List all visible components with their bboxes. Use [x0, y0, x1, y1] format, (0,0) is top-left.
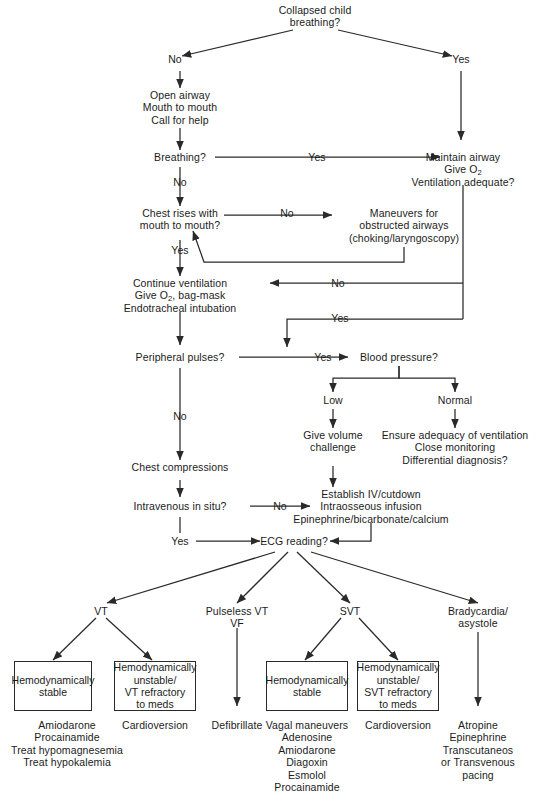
node-breathing: Breathing? [154, 151, 206, 163]
label-bp-low: Low [323, 394, 343, 406]
node-continue-ventilation-line1: Continue ventilation [133, 277, 227, 289]
box-svt-hemodynamically-stable[interactable]: Hemodynamically stable [266, 661, 348, 711]
treatment-pulseless: Defibrillate [212, 719, 263, 731]
node-chest-rises: Chest rises with mouth to mouth? [140, 207, 220, 232]
label-pulses-no: No [173, 410, 187, 422]
branch-label-vt: VT [94, 605, 108, 617]
node-collapsed-child-breathing: Collapsed child breathing? [279, 4, 352, 29]
flowchart-canvas: Collapsed child breathing? No Yes Open a… [0, 0, 556, 804]
node-peripheral-pulses: Peripheral pulses? [136, 351, 225, 363]
give-o2-text-2: Give O [135, 289, 168, 301]
treatment-vt-unstable: Cardioversion [122, 719, 188, 731]
node-open-airway: Open airway Mouth to mouth Call for help [143, 89, 217, 126]
branch-label-bradycardia-asystole: Bradycardia/ asystole [448, 605, 508, 630]
box-vt-unstable-text: Hemodynamically unstable/ VT refractory … [114, 661, 197, 711]
treatment-bradycardia: Atropine Epinephrine Transcutaneos or Tr… [441, 719, 515, 781]
treatment-svt-unstable: Cardioversion [365, 719, 431, 731]
label-pulses-yes: Yes [314, 351, 331, 363]
label-yes-1: Yes [452, 53, 469, 65]
box-svt-hemodynamically-unstable[interactable]: Hemodynamically unstable/ SVT refractory… [357, 661, 439, 711]
label-breathing-no: No [173, 176, 187, 188]
label-ventilation-no: No [331, 277, 345, 289]
branch-label-pulseless-vt-vf: Pulseless VT VF [206, 605, 268, 630]
node-endotracheal-intubation: Endotracheal intubation [124, 302, 237, 314]
box-vt-stable-text: Hemodynamically stable [12, 674, 95, 699]
treatment-vt-stable: Amiodarone Procainamide Treat hypomagnes… [11, 719, 123, 769]
box-vt-hemodynamically-unstable[interactable]: Hemodynamically unstable/ VT refractory … [114, 661, 196, 711]
give-o2-text: Give O [444, 163, 477, 175]
node-intravenous-in-situ: Intravenous in situ? [133, 500, 226, 512]
label-chest-rises-no: No [280, 207, 294, 219]
branch-label-svt: SVT [340, 605, 361, 617]
node-establish-iv: Establish IV/cutdown Intraosseous infusi… [293, 488, 448, 525]
node-blood-pressure: Blood pressure? [360, 351, 438, 363]
bag-mask-text: , bag-mask [172, 289, 225, 301]
treatment-svt-stable: Vagal maneuvers Adenosine Amiodarone Dia… [266, 719, 348, 793]
node-chest-compressions: Chest compressions [132, 461, 229, 473]
label-iv-yes: Yes [171, 535, 188, 547]
node-give-volume-challenge: Give volume challenge [303, 429, 362, 454]
node-ecg-reading: ECG reading? [260, 535, 328, 547]
node-maintain-airway-line1: Maintain airway [426, 151, 500, 163]
label-bp-normal: Normal [438, 394, 472, 406]
node-maneuvers-obstructed-airways: Maneuvers for obstructed airways (chokin… [349, 207, 459, 244]
node-ensure-adequacy: Ensure adequacy of ventilation Close mon… [382, 429, 529, 466]
label-ventilation-yes: Yes [331, 312, 348, 324]
box-svt-unstable-text: Hemodynamically unstable/ SVT refractory… [357, 661, 440, 711]
label-chest-rises-yes: Yes [171, 244, 188, 256]
node-ventilation-adequate: Ventilation adequate? [411, 176, 514, 188]
label-breathing-yes: Yes [308, 151, 325, 163]
label-no-1: No [168, 53, 182, 65]
label-iv-no: No [273, 500, 287, 512]
box-svt-stable-text: Hemodynamically stable [266, 674, 349, 699]
box-vt-hemodynamically-stable[interactable]: Hemodynamically stable [14, 661, 92, 711]
